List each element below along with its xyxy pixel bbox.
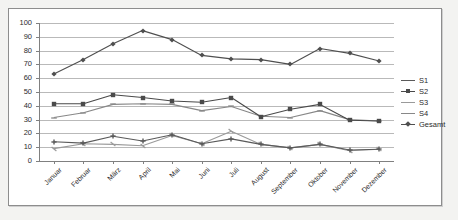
chart-legend: S1S2S3S4Gesamt bbox=[401, 75, 445, 130]
data-point-S2 bbox=[200, 100, 204, 104]
data-point-S2 bbox=[259, 115, 263, 119]
data-point-S2 bbox=[229, 96, 233, 100]
legend-item-Gesamt[interactable]: Gesamt bbox=[401, 119, 445, 130]
legend-label-S1: S1 bbox=[419, 76, 428, 85]
legend-marker-S4-icon bbox=[401, 109, 415, 118]
data-point-S2 bbox=[111, 93, 115, 97]
data-point-S2 bbox=[81, 102, 85, 106]
legend-marker-S3-icon bbox=[401, 98, 415, 107]
data-point-S2 bbox=[170, 99, 174, 103]
legend-item-S4[interactable]: S4 bbox=[401, 108, 445, 119]
legend-item-S3[interactable]: S3 bbox=[401, 97, 445, 108]
data-point-S2 bbox=[377, 119, 381, 123]
legend-item-S2[interactable]: S2 bbox=[401, 86, 445, 97]
legend-marker-S2-icon bbox=[401, 87, 415, 96]
data-point-S2 bbox=[288, 107, 292, 111]
data-point-S2 bbox=[141, 96, 145, 100]
legend-label-S3: S3 bbox=[419, 98, 428, 107]
legend-marker-S1-icon bbox=[401, 76, 415, 85]
data-point-S2 bbox=[318, 102, 322, 106]
chart-area: 1009080706050403020100 JanuarFebruarMärz… bbox=[9, 9, 441, 205]
legend-marker-Gesamt-icon bbox=[401, 120, 415, 129]
data-point-S2 bbox=[348, 118, 352, 122]
legend-label-S4: S4 bbox=[419, 109, 428, 118]
legend-item-S1[interactable]: S1 bbox=[401, 75, 445, 86]
chart-figure-frame: 1009080706050403020100 JanuarFebruarMärz… bbox=[8, 8, 442, 206]
data-point-S2 bbox=[52, 102, 56, 106]
screenshot-root: 1009080706050403020100 JanuarFebruarMärz… bbox=[0, 0, 458, 220]
legend-label-S2: S2 bbox=[419, 87, 428, 96]
legend-label-Gesamt: Gesamt bbox=[419, 120, 445, 129]
